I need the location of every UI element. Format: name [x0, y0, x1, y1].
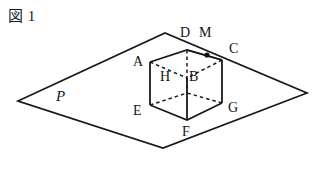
- vertex-label-A: A: [133, 55, 143, 69]
- vertex-label-C: C: [229, 42, 238, 56]
- vertex-label-H: H: [160, 70, 170, 84]
- vertex-label-E: E: [133, 104, 142, 118]
- cube-bottom-face-edges: [150, 103, 222, 120]
- vertex-label-M: M: [199, 26, 211, 40]
- cube-edge-EH-hidden: [150, 93, 187, 105]
- vertex-label-G: G: [228, 101, 238, 115]
- figure-canvas: 図 1 A D M C H B E: [0, 0, 314, 178]
- geometry-diagram: [0, 0, 314, 178]
- cube-edge-GH-hidden: [187, 93, 222, 103]
- vertex-label-F: F: [182, 125, 190, 139]
- point-m-marker: [204, 52, 209, 57]
- plane-label-P: P: [56, 89, 65, 104]
- vertex-label-B: B: [189, 70, 198, 84]
- vertex-label-D: D: [180, 26, 190, 40]
